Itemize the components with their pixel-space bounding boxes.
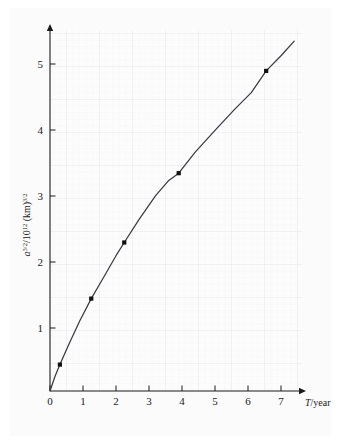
y-tick-label-4: 4 bbox=[38, 124, 44, 136]
x-tick-label-4: 4 bbox=[179, 395, 185, 407]
x-tick-label-7: 7 bbox=[278, 395, 284, 407]
y-tick-label-1: 1 bbox=[38, 322, 44, 334]
x-tick-label-2: 2 bbox=[113, 395, 119, 407]
y-tick-label-3: 3 bbox=[38, 190, 44, 202]
scatter-plot: 0 1 2 3 4 5 6 7 1 2 3 4 5 T/ye bbox=[0, 0, 341, 448]
svg-text:T/year: T/year bbox=[305, 397, 331, 408]
grid-area bbox=[50, 30, 302, 391]
x-axis-title-rest: /year bbox=[311, 397, 332, 408]
y-axis-title-unit-exp: 3/2 bbox=[21, 194, 28, 202]
data-point-4 bbox=[177, 171, 181, 175]
data-point-1 bbox=[58, 363, 62, 367]
y-tick-label-2: 2 bbox=[38, 256, 44, 268]
svg-text:a3/2/1012 (km)3/2: a3/2/1012 (km)3/2 bbox=[21, 194, 34, 257]
x-axis-tick-labels: 0 1 2 3 4 5 6 7 bbox=[47, 395, 284, 407]
x-tick-label-1: 1 bbox=[80, 395, 86, 407]
x-tick-label-0: 0 bbox=[47, 395, 53, 407]
x-tick-label-5: 5 bbox=[212, 395, 218, 407]
y-axis-title-divider: /10 bbox=[21, 230, 32, 243]
y-axis-title: a3/2/1012 (km)3/2 bbox=[21, 194, 34, 257]
x-tick-label-6: 6 bbox=[245, 395, 251, 407]
x-tick-label-3: 3 bbox=[146, 395, 152, 407]
y-axis-tick-labels: 1 2 3 4 5 bbox=[38, 58, 44, 334]
data-point-3 bbox=[122, 240, 126, 244]
y-axis-title-var-exp: 3/2 bbox=[21, 243, 28, 251]
data-point-2 bbox=[89, 297, 93, 301]
y-tick-label-5: 5 bbox=[38, 58, 44, 70]
figure-page: 0 1 2 3 4 5 6 7 1 2 3 4 5 T/ye bbox=[0, 0, 341, 448]
x-axis-title: T/year bbox=[305, 397, 331, 408]
y-axis-title-unit: (km) bbox=[21, 202, 33, 224]
data-point-5 bbox=[264, 69, 268, 73]
